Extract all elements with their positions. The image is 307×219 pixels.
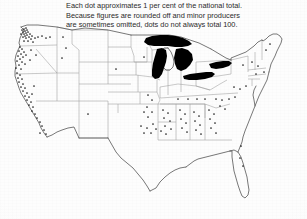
lake-ontario xyxy=(209,61,232,69)
national-outline xyxy=(15,25,282,198)
great-lakes xyxy=(144,35,232,80)
us-map-svg xyxy=(0,0,307,219)
caption-line-1: Each dot approximates 1 per cent of the … xyxy=(66,1,304,11)
dot-density-map-figure: Each dot approximates 1 per cent of the … xyxy=(0,0,307,219)
caption-line-2: Because figures are rounded off and mino… xyxy=(66,11,304,21)
state-borders xyxy=(15,27,266,140)
lake-erie xyxy=(183,72,215,80)
lake-michigan xyxy=(152,48,167,79)
map-caption: Each dot approximates 1 per cent of the … xyxy=(66,1,304,30)
map-layers xyxy=(15,25,282,198)
density-dots xyxy=(15,27,271,167)
caption-line-3: are sometimes omitted, dots do not alway… xyxy=(66,20,304,30)
lake-huron xyxy=(174,48,193,71)
lake-superior xyxy=(144,35,192,47)
